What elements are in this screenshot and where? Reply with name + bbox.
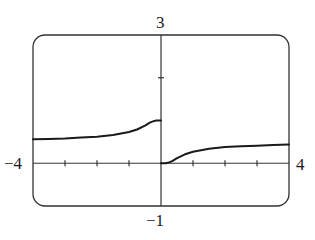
y-min-label: −1 xyxy=(146,212,164,229)
x-min-label: −4 xyxy=(4,155,22,172)
graph-plot xyxy=(0,0,315,240)
left-branch-curve xyxy=(33,121,161,140)
y-max-label: 3 xyxy=(156,14,165,31)
x-max-label: 4 xyxy=(296,156,305,173)
